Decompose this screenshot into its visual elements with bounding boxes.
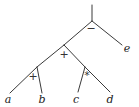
operator-n_times: * <box>84 69 90 82</box>
leaf-e: e <box>124 42 131 55</box>
leaf-b: b <box>38 93 45 106</box>
operator-n_minus: − <box>86 22 95 35</box>
edge-n_plus_low-to-b <box>37 67 42 93</box>
leaf-a: a <box>5 93 12 106</box>
leaf-c: c <box>73 93 79 106</box>
operator-n_plus_top: + <box>59 48 68 61</box>
expression-tree-diagram: −++* abcde <box>0 0 139 107</box>
operator-n_plus_low: + <box>28 70 37 83</box>
leaf-d: d <box>106 93 113 106</box>
edge-n_minus-to-e <box>92 21 122 45</box>
